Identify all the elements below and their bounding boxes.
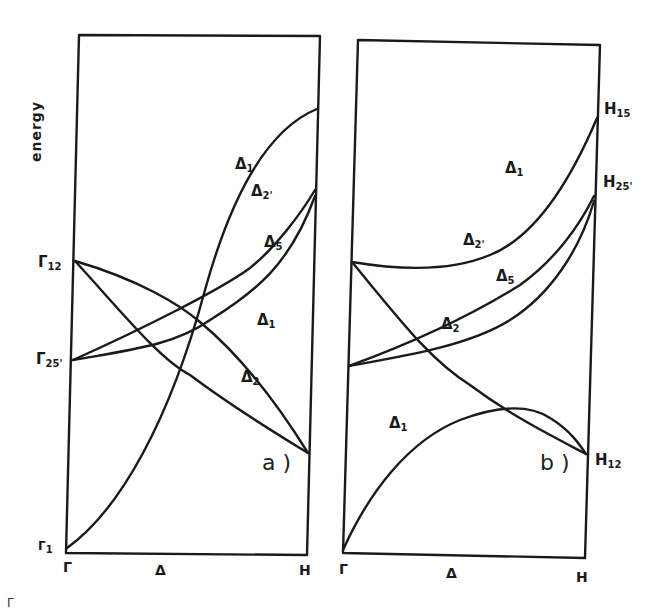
panel-b-x-mid-delta: Δ xyxy=(446,566,457,580)
panel-a-label-delta1-upper: Δ1 xyxy=(235,157,254,174)
y-axis-label: energy xyxy=(28,101,44,162)
panel-a-band-delta1-falling xyxy=(75,261,308,453)
panel-b-label-delta1-lower: Δ1 xyxy=(389,416,408,433)
label-gamma12: Γ12 xyxy=(38,255,61,272)
panel-b-label-delta2: Δ2 xyxy=(441,317,460,334)
label-h25prime: H25' xyxy=(603,175,633,192)
label-gamma1: Γ1 xyxy=(38,540,53,555)
panel-b-label-delta5: Δ5 xyxy=(496,269,515,286)
label-h15: H15 xyxy=(604,102,630,119)
panel-a-band-delta2 xyxy=(75,261,308,453)
panel-b-band-delta5 xyxy=(349,201,594,366)
label-h12: H12 xyxy=(595,453,621,470)
panel-a-x-end-h: H xyxy=(299,563,311,577)
panel-b-x-end-h: H xyxy=(576,570,588,584)
panel-b-label-delta1-upper: Δ1 xyxy=(505,161,524,178)
label-gamma25prime: Γ25' xyxy=(36,352,63,369)
panel-b-band-delta1-lower xyxy=(343,408,586,550)
panel-b-label-delta2prime: Δ2' xyxy=(463,233,485,250)
panel-a-x-mid-delta: Δ xyxy=(155,563,166,577)
panel-b-x-start-gamma: Γ xyxy=(339,562,348,576)
band-structure-figure: energy Γ12 Γ25' Γ1 Δ1 Δ2' Δ5 Δ1 Δ2 a ) Γ… xyxy=(0,0,667,610)
panel-a-band-delta1-rising xyxy=(67,109,317,548)
panel-a-label-delta1-lower: Δ1 xyxy=(257,313,276,330)
panel-a-label-delta5: Δ5 xyxy=(264,235,283,252)
panel-a-x-start-gamma: Γ xyxy=(63,560,72,574)
panel-a-band-delta2prime xyxy=(73,190,315,360)
band-structure-plot xyxy=(0,0,667,610)
panel-b-band-delta2prime xyxy=(349,196,594,366)
stray-gamma-mark: Γ xyxy=(7,596,14,610)
panel-a-label-delta2prime: Δ2' xyxy=(251,184,273,201)
panel-a-label-delta2: Δ2 xyxy=(241,370,260,387)
panel-b-tag: b ) xyxy=(540,452,570,474)
panel-a-band-delta5 xyxy=(73,196,315,360)
panel-a-tag: a ) xyxy=(262,452,291,474)
